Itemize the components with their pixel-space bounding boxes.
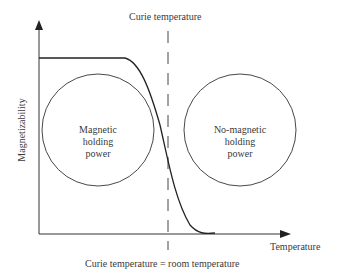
magnetic-line-1: Magnetic: [68, 124, 128, 136]
y-axis-label: Magnetizability: [16, 98, 27, 161]
no-magnetic-line-2: holding: [200, 136, 280, 148]
no-magnetic-line-3: power: [200, 148, 280, 160]
x-axis-label: Temperature: [270, 241, 320, 253]
diagram-canvas: [0, 0, 344, 279]
no-magnetic-holding-power-label: No-magnetic holding power: [200, 124, 280, 160]
magnetic-line-2: holding: [68, 136, 128, 148]
x-axis-arrow-icon: [280, 230, 291, 238]
curie-temperature-label: Curie temperature: [129, 11, 201, 23]
magnetic-line-3: power: [68, 148, 128, 160]
no-magnetic-line-1: No-magnetic: [200, 124, 280, 136]
curie-equals-room-temperature-label: Curie temperature = room temperature: [85, 258, 239, 270]
magnetic-holding-power-label: Magnetic holding power: [68, 124, 128, 160]
y-axis-arrow-icon: [35, 20, 43, 30]
